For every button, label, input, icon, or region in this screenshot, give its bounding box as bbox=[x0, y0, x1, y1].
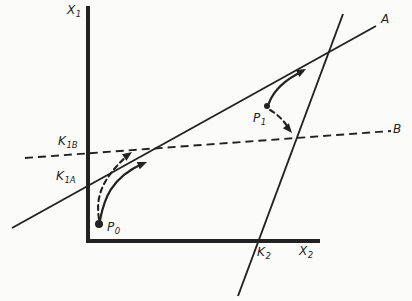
y-axis-label: X1 bbox=[67, 4, 81, 16]
line-A bbox=[12, 26, 376, 228]
point-P0 bbox=[95, 220, 103, 228]
line-K2 bbox=[238, 14, 343, 296]
arrowhead-p1-dashed bbox=[283, 123, 292, 133]
point-P1 bbox=[264, 103, 270, 109]
tick-label-k1b: K1B bbox=[58, 135, 77, 147]
x-axis-label: X2 bbox=[299, 245, 313, 257]
point-p1-label: P1 bbox=[253, 112, 266, 124]
arrowhead-p0-solid bbox=[137, 162, 147, 169]
line-B bbox=[25, 131, 391, 158]
tick-label-k2: K2 bbox=[257, 246, 270, 258]
line-a-label: A bbox=[381, 13, 389, 25]
point-p0-label: P0 bbox=[107, 221, 120, 233]
tick-label-k1a: K1A bbox=[56, 170, 75, 182]
trajectory-p0-solid bbox=[100, 163, 144, 220]
diagram-svg bbox=[0, 0, 412, 301]
line-b-label: B bbox=[393, 123, 401, 135]
figure-canvas: X1 X2 K1B K1A K2 A B P0 P1 bbox=[0, 0, 412, 301]
